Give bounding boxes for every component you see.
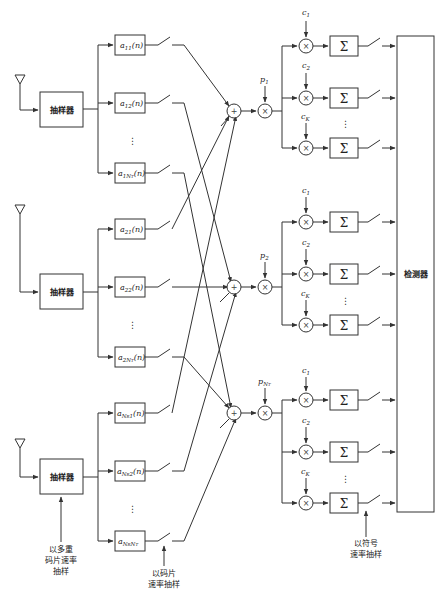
svg-text:以码片: 以码片 [152,568,176,578]
sampler-label-1: 抽样器 [50,105,75,115]
svg-text:c1: c1 [302,186,310,196]
annotation-symbol-rate: 以符号 速率抽样 [350,538,382,559]
filter-bank: a11(n) a12(n) ⋮ a1NT(n) a21(n) a22(n) ⋮ … [115,35,145,551]
receiver-block-diagram: 抽样器 抽样器 抽样器 a11(n) [0,0,443,600]
svg-text:Σ: Σ [340,40,348,54]
svg-text:×: × [303,42,310,51]
svg-text:Σ: Σ [340,92,348,106]
annotation-chip-rate: 以码片 速率抽样 [148,568,180,589]
svg-text:以符号: 以符号 [354,538,378,548]
svg-text:+: + [231,107,238,116]
vertical-ellipsis: ⋮ [128,504,137,514]
combiner-branch-2: + × p2 [227,251,282,294]
svg-text:c2: c2 [302,61,310,71]
despread-group-3: × c1 Σ × c2 Σ ⋮ × cK Σ [282,366,395,537]
antenna-icon [15,205,25,214]
svg-text:×: × [303,396,310,405]
svg-text:⋮: ⋮ [341,474,350,484]
svg-text:+: + [231,409,238,418]
p-label-1: p1 [260,75,269,85]
svg-text:抽样: 抽样 [53,566,69,576]
svg-text:Σ: Σ [340,394,348,408]
svg-text:×: × [303,321,310,330]
despread-group-1: × c1 Σ × c2 Σ ⋮ × cK Σ [282,8,395,158]
svg-text:Σ: Σ [340,319,348,333]
svg-text:+: + [231,283,238,292]
svg-text:×: × [303,94,310,103]
chip-rate-switches [145,37,170,566]
vertical-ellipsis: ⋮ [128,320,137,330]
svg-text:×: × [262,283,269,292]
svg-text:×: × [303,448,310,457]
vertical-ellipsis: ⋮ [128,136,137,146]
svg-text:⋮: ⋮ [341,119,350,129]
svg-text:c1: c1 [302,8,310,18]
filter-label: a12(n) [120,99,143,109]
antenna-group-1: 抽样器 [15,75,83,127]
despread-group-2: × c1 Σ × c2 Σ ⋮ × cK Σ [282,186,395,335]
sampler-label-3: 抽样器 [50,472,75,482]
svg-text:Σ: Σ [340,497,348,511]
antenna-group-2: 抽样器 [15,205,83,309]
svg-text:×: × [262,409,269,418]
antenna-icon [15,75,25,84]
annotation-multi-chip-rate: 以多重 码片速率 抽样 [45,544,77,576]
svg-text:cK: cK [301,112,310,122]
svg-text:码片速率: 码片速率 [45,555,77,565]
svg-text:×: × [303,144,310,153]
svg-text:×: × [262,107,269,116]
p-label-2: p2 [260,251,269,261]
sampler-label-2: 抽样器 [50,287,75,297]
svg-text:cK: cK [301,289,310,299]
combiner-branch-3: + × pNT [227,377,282,420]
filter-label: a21(n) [120,225,143,235]
detector-label: 检测器 [404,269,429,279]
p-label-NT: pNT [258,377,271,387]
svg-text:Σ: Σ [340,142,348,156]
detector: 检测器 [397,36,434,512]
svg-text:cK: cK [301,467,310,477]
svg-text:以多重: 以多重 [49,544,73,554]
svg-text:c2: c2 [302,416,310,426]
svg-text:⋮: ⋮ [341,296,350,306]
antenna-group-3: 抽样器 [15,439,83,542]
svg-text:c1: c1 [302,366,310,376]
antenna-icon [15,439,25,448]
svg-text:×: × [303,218,310,227]
svg-text:×: × [303,270,310,279]
svg-text:速率抽样: 速率抽样 [350,549,382,559]
svg-text:速率抽样: 速率抽样 [148,579,180,589]
combiner-branch-1: + × p1 [227,75,282,118]
svg-text:Σ: Σ [340,446,348,460]
cross-connections [172,45,236,541]
svg-text:×: × [303,499,310,508]
svg-text:Σ: Σ [340,268,348,282]
svg-text:c2: c2 [302,238,310,248]
svg-text:Σ: Σ [340,216,348,230]
fanout-lines [83,45,113,541]
filter-label: a11(n) [120,41,143,51]
filter-label: a22(n) [120,283,143,293]
